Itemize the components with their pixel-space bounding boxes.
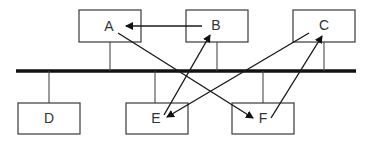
bus-network-diagram: A B C D E F bbox=[0, 0, 372, 145]
node-label-D: D bbox=[44, 110, 54, 126]
node-label-C: C bbox=[319, 17, 329, 33]
node-E: E bbox=[126, 103, 188, 134]
node-F: F bbox=[232, 103, 294, 134]
node-label-A: A bbox=[104, 18, 114, 34]
node-label-B: B bbox=[211, 17, 220, 33]
arrow-F-to-C bbox=[271, 36, 322, 118]
node-label-F: F bbox=[259, 110, 268, 126]
node-label-E: E bbox=[151, 110, 160, 126]
node-D: D bbox=[18, 103, 80, 134]
